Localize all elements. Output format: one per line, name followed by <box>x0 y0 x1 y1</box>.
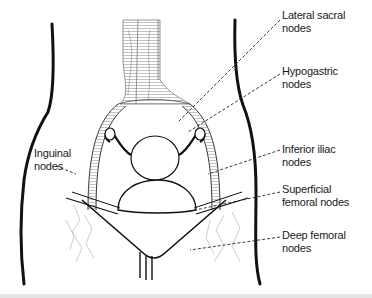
pelvic-lymph-nodes-diagram: Lateral sacral nodes Hypogastric nodes I… <box>0 0 372 298</box>
label-deep-femoral-nodes: Deep femoral nodes <box>282 229 346 255</box>
sacrum-vessels <box>120 20 190 104</box>
label-inferior-iliac-nodes: Inferior iliac nodes <box>282 143 335 169</box>
label-inguinal-nodes: Inguinal nodes <box>34 147 71 173</box>
bladder <box>118 180 196 213</box>
uterus-and-tubes <box>105 128 205 180</box>
body-outline-right <box>235 20 260 284</box>
label-superficial-femoral-nodes: Superficial femoral nodes <box>282 183 349 209</box>
bottom-divider <box>0 294 372 298</box>
label-lateral-sacral-nodes: Lateral sacral nodes <box>282 9 345 35</box>
leader-lines <box>56 20 280 250</box>
label-hypogastric-nodes: Hypogastric nodes <box>282 65 338 91</box>
